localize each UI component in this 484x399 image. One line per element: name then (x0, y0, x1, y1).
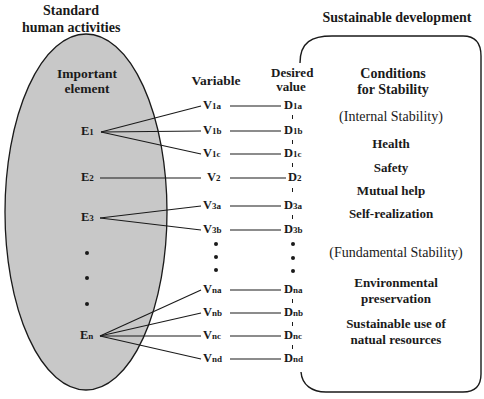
condition-environmental-line1: Environmental (326, 275, 466, 291)
variable-letter: V (203, 146, 212, 160)
important-element-header: Important element (50, 66, 124, 96)
important-element-header-line1: Important (50, 66, 124, 81)
desired-d2: D2 (288, 171, 302, 185)
variable-v1c: V1c (203, 147, 221, 161)
fundamental-stability-label: (Fundamental Stability) (316, 246, 476, 260)
desired-subscript: na (293, 285, 303, 295)
connector-tick (292, 345, 293, 349)
connector-tick (292, 163, 293, 167)
desired-subscript: nb (293, 308, 303, 318)
ellipsis-dot (214, 268, 218, 272)
desired-d3b: D3b (284, 223, 303, 237)
ellipsis-dot (291, 242, 295, 246)
condition-sustainable-resource-use: Sustainable use of natual resources (326, 316, 466, 348)
element-e3: E3 (81, 211, 94, 225)
connector-tick (292, 215, 293, 219)
ellipsis-dot (85, 302, 89, 306)
variable-letter: V (207, 170, 216, 184)
condition-environmental-line2: preservation (326, 291, 466, 307)
ellipsis-dot (85, 251, 89, 255)
element-e2: E2 (81, 171, 94, 185)
variable-subscript: 1c (212, 149, 221, 159)
desired-dna: Dna (284, 283, 303, 297)
variable-letter: V (203, 98, 212, 112)
variable-header: Variable (186, 74, 246, 88)
variable-v1b: V1b (203, 124, 222, 138)
variable-vnd: Vnd (203, 352, 222, 366)
desired-letter: D (284, 222, 293, 236)
right-title: Sustainable development (310, 11, 484, 25)
desired-subscript: nd (293, 354, 303, 364)
desired-value-header-line1: Desired (271, 66, 311, 80)
desired-d1c: D1c (284, 147, 302, 161)
desired-d1a: D1a (284, 99, 302, 113)
connector-tick (292, 115, 293, 119)
ellipsis-dot (214, 242, 218, 246)
desired-subscript: 1c (293, 149, 302, 159)
variable-subscript: 2 (216, 173, 221, 183)
desired-dnb: Dnb (284, 306, 303, 320)
variable-letter: V (203, 222, 212, 236)
desired-letter: D (284, 305, 293, 319)
variable-v3b: V3b (203, 223, 222, 237)
left-title-line1: Standard (22, 2, 120, 19)
conditions-header-line2: for Stability (338, 82, 448, 98)
variable-subscript: nd (212, 354, 222, 364)
ellipsis-dot (85, 276, 89, 280)
variable-subscript: 3a (212, 201, 221, 211)
ellipsis-dot (291, 269, 295, 273)
desired-letter: D (284, 123, 293, 137)
important-element-header-line2: element (50, 81, 124, 96)
variable-letter: V (203, 282, 212, 296)
variable-subscript: nc (212, 331, 221, 341)
desired-subscript: nc (293, 331, 302, 341)
variable-letter: V (203, 351, 212, 365)
condition-safety: Safety (326, 161, 456, 175)
variable-letter: V (203, 123, 212, 137)
desired-letter: D (284, 351, 293, 365)
variable-subscript: 1b (212, 126, 222, 136)
variable-vnc: Vnc (203, 329, 221, 343)
desired-dnd: Dnd (284, 352, 303, 366)
variable-v2: V2 (207, 171, 221, 185)
left-title-line2: human activities (22, 19, 120, 36)
desired-subscript: 2 (297, 173, 302, 183)
condition-self-realization: Self-realization (326, 207, 456, 221)
desired-letter: D (284, 198, 293, 212)
variable-vnb: Vnb (203, 306, 222, 320)
connector-tick (292, 140, 293, 144)
left-title: Standard human activities (22, 2, 120, 36)
element-subscript: 1 (89, 127, 94, 137)
desired-letter: D (284, 146, 293, 160)
desired-value-header-line2: value (271, 80, 311, 94)
desired-letter: D (284, 98, 293, 112)
ellipsis-dot (214, 255, 218, 259)
variable-vna: Vna (203, 283, 222, 297)
connector-tick (292, 322, 293, 326)
desired-subscript: 1a (293, 101, 302, 111)
connector-tick (292, 299, 293, 303)
condition-mutual-help: Mutual help (326, 184, 456, 198)
conditions-header-line1: Conditions (338, 66, 448, 82)
connector-tick (292, 188, 293, 192)
desired-letter: D (284, 282, 293, 296)
element-subscript: 3 (89, 213, 94, 223)
desired-letter: D (284, 328, 293, 342)
condition-sustainable-line1: Sustainable use of (326, 316, 466, 332)
variable-subscript: nb (212, 308, 222, 318)
variable-v3a: V3a (203, 199, 221, 213)
variable-v1a: V1a (203, 99, 221, 113)
element-en: En (80, 329, 93, 343)
internal-stability-label: (Internal Stability) (316, 110, 466, 124)
condition-sustainable-line2: natual resources (326, 332, 466, 348)
variable-letter: V (203, 198, 212, 212)
desired-subscript: 3a (293, 201, 302, 211)
element-e1: E1 (81, 125, 94, 139)
ellipsis-dot (291, 256, 295, 260)
desired-subscript: 3b (293, 225, 303, 235)
condition-environmental-preservation: Environmental preservation (326, 275, 466, 307)
element-subscript: n (88, 331, 93, 341)
conditions-header: Conditions for Stability (338, 66, 448, 98)
element-subscript: 2 (89, 173, 94, 183)
desired-d3a: D3a (284, 199, 302, 213)
